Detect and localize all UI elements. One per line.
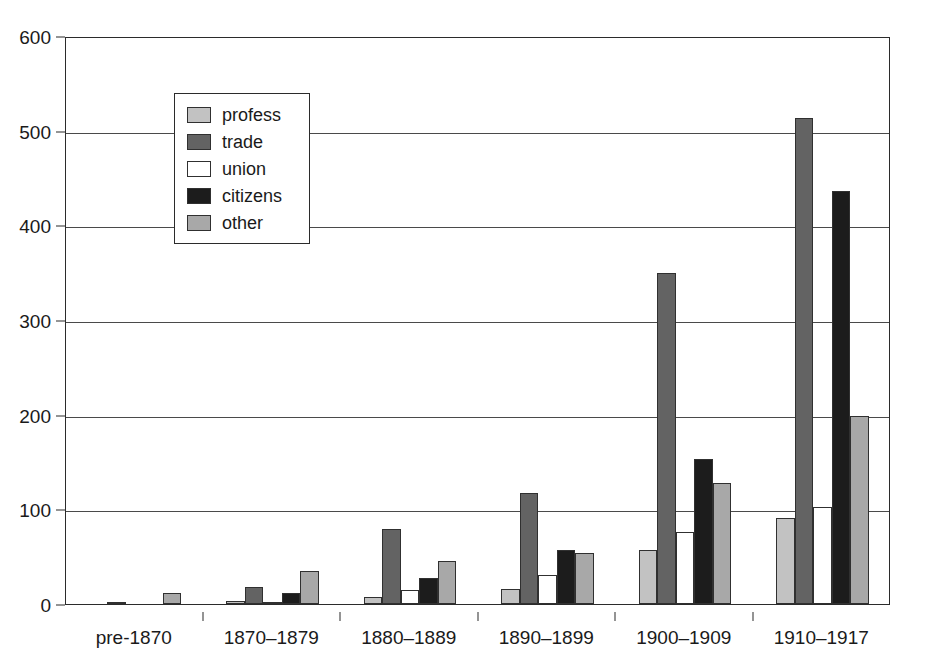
bar [795, 118, 814, 604]
y-axis-tick-label: 0 [40, 596, 51, 615]
y-axis-tick-label: 100 [19, 501, 51, 520]
legend-item-label: other [222, 214, 263, 232]
bar [657, 273, 676, 604]
legend-item-label: trade [222, 133, 263, 151]
bar [401, 590, 420, 604]
x-axis-tick-label: 1900–1909 [636, 627, 731, 649]
legend-swatch-icon [187, 134, 211, 150]
y-axis-tick-mark [56, 131, 65, 132]
chart-page: 0100200300400500600 professtradeunioncit… [0, 0, 929, 663]
y-axis-tick-mark [56, 605, 65, 606]
bar [713, 483, 732, 604]
y-axis-tick-mark [56, 226, 65, 227]
y-axis-tick-label: 400 [19, 217, 51, 236]
x-axis: pre-18701870–18791880–18891890–18991900–… [65, 612, 890, 652]
bar [501, 589, 520, 604]
bar [226, 601, 245, 604]
legend-item-label: union [222, 160, 266, 178]
bar [575, 553, 594, 604]
y-axis-tick-label: 600 [19, 28, 51, 47]
x-axis-tick-mark [477, 612, 478, 621]
bar [419, 578, 438, 605]
bar [300, 571, 319, 604]
legend-swatch-icon [187, 107, 211, 123]
legend-item-label: profess [222, 106, 281, 124]
bar [776, 518, 795, 604]
x-axis-tick-label: 1870–1879 [224, 627, 319, 649]
legend-item: citizens [175, 182, 309, 209]
bar [263, 602, 282, 604]
bar [850, 416, 869, 604]
bar [438, 561, 457, 604]
y-axis-tick-label: 300 [19, 312, 51, 331]
bar [107, 602, 126, 604]
x-axis-tick-label: pre-1870 [96, 627, 172, 649]
plot-area: professtradeunioncitizensother [65, 37, 890, 605]
bar [520, 493, 539, 604]
y-axis-tick-mark [56, 37, 65, 38]
legend-item: trade [175, 128, 309, 155]
bar [832, 191, 851, 604]
legend-item: other [175, 209, 309, 236]
x-axis-tick-label: 1880–1889 [361, 627, 456, 649]
y-axis: 0100200300400500600 [0, 0, 65, 663]
bar [538, 575, 557, 604]
bar [163, 593, 182, 604]
legend-item-label: citizens [222, 187, 282, 205]
legend-swatch-icon [187, 188, 211, 204]
x-axis-tick-label: 1890–1899 [499, 627, 594, 649]
bar [557, 550, 576, 604]
bar [694, 459, 713, 604]
bar [676, 532, 695, 604]
bar [813, 507, 832, 604]
bar [382, 529, 401, 604]
legend-item: union [175, 155, 309, 182]
legend-swatch-icon [187, 161, 211, 177]
legend-item: profess [175, 101, 309, 128]
y-axis-tick-label: 200 [19, 406, 51, 425]
y-axis-tick-label: 500 [19, 122, 51, 141]
bar [639, 550, 658, 604]
legend-swatch-icon [187, 215, 211, 231]
chart-legend: professtradeunioncitizensother [174, 93, 310, 244]
bar [282, 593, 301, 604]
bar [364, 597, 383, 604]
x-axis-tick-mark [752, 612, 753, 621]
x-axis-tick-label: 1910–1917 [774, 627, 869, 649]
y-axis-tick-mark [56, 510, 65, 511]
y-axis-tick-mark [56, 321, 65, 322]
x-axis-tick-mark [615, 612, 616, 621]
x-axis-tick-mark [202, 612, 203, 621]
bar [245, 587, 264, 604]
x-axis-tick-mark [340, 612, 341, 621]
y-axis-tick-mark [56, 415, 65, 416]
